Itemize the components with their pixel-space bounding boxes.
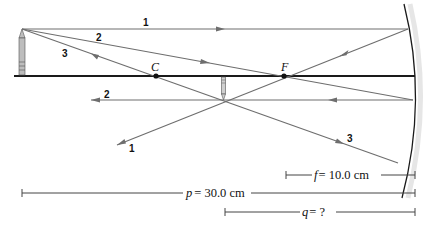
concave-mirror — [402, 4, 421, 198]
ray-2 — [22, 29, 413, 103]
svg-text:p= 30.0 cm: p= 30.0 cm — [185, 186, 245, 200]
dimension-f: f= 10.0 cm — [286, 168, 415, 182]
ray-1 — [22, 27, 408, 146]
ray-3-label-bottom: 3 — [347, 133, 353, 144]
svg-text:F: F — [280, 60, 289, 74]
ray-1-label-top: 1 — [143, 17, 149, 28]
image-pencil-icon — [222, 77, 226, 100]
ray-3-label-top: 3 — [62, 48, 68, 59]
ray-2-label-bottom: 2 — [104, 89, 110, 100]
dimension-p: p= 30.0 cm — [22, 186, 415, 200]
svg-text:q= ?: q= ? — [302, 205, 325, 219]
ray-3 — [22, 29, 398, 163]
svg-text:f= 10.0 cm: f= 10.0 cm — [314, 168, 369, 182]
ray-2-label-top: 2 — [96, 32, 102, 43]
ray-1-label-bottom: 1 — [129, 143, 135, 154]
svg-text:C: C — [151, 60, 160, 74]
object-pencil-icon — [19, 29, 25, 75]
mirror-ray-diagram: C F 1 2 3 2 1 3 f= 10.0 cm p= 30.0 cm q=… — [0, 0, 430, 232]
dimension-q: q= ? — [225, 205, 415, 219]
